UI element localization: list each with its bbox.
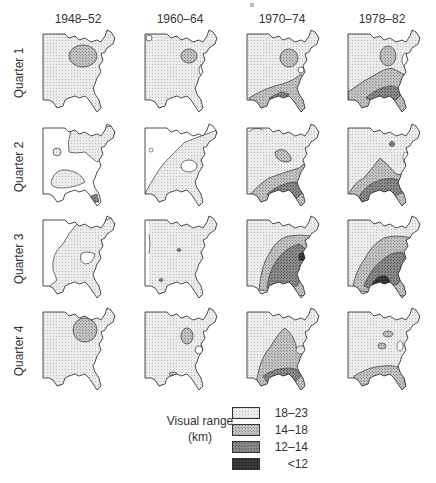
map-q2-1970-74 [239, 122, 329, 212]
map-q3-1978-82 [340, 214, 430, 304]
legend-label: <12 [268, 457, 308, 471]
row-label-text: Quarter 1 [12, 48, 26, 99]
row-label-quarter-2: Quarter 2 [4, 122, 34, 212]
map-q1-1978-82 [340, 28, 430, 118]
map-q4-1960-64 [137, 306, 227, 396]
legend-label: 18–23 [268, 406, 308, 420]
column-title-1960-64: 1960–64 [135, 12, 225, 26]
map-q2-1948-52 [35, 122, 125, 212]
page-mark [250, 3, 254, 7]
row-label-text: Quarter 2 [12, 142, 26, 193]
row-label-quarter-3: Quarter 3 [4, 214, 34, 304]
map-q4-1970-74 [239, 306, 329, 396]
map-q3-1970-74 [239, 214, 329, 304]
legend-label: 14–18 [268, 423, 308, 437]
column-title-1970-74: 1970–74 [237, 12, 327, 26]
row-label-text: Quarter 4 [12, 326, 26, 377]
map-q2-1960-64 [137, 122, 227, 212]
legend-item-12-14: 12–14 [232, 440, 308, 454]
row-label-quarter-4: Quarter 4 [4, 306, 34, 396]
row-label-text: Quarter 3 [12, 234, 26, 285]
map-q1-1970-74 [239, 28, 329, 118]
legend-item-14-18: 14–18 [232, 423, 308, 437]
legend-swatch-12-14 [232, 441, 260, 453]
map-q4-1948-52 [35, 306, 125, 396]
column-title-1948-52: 1948–52 [33, 12, 123, 26]
legend-item-18-23: 18–23 [232, 406, 308, 420]
map-q3-1948-52 [35, 214, 125, 304]
row-label-quarter-1: Quarter 1 [4, 28, 34, 118]
legend-item-lt12: <12 [232, 457, 308, 471]
map-q1-1948-52 [35, 28, 125, 118]
map-q1-1960-64 [137, 28, 227, 118]
map-q2-1978-82 [340, 122, 430, 212]
column-title-1978-82: 1978–82 [337, 12, 427, 26]
map-q4-1978-82 [340, 306, 430, 396]
legend-swatch-18-23 [232, 407, 260, 419]
legend-label: 12–14 [268, 440, 308, 454]
map-q3-1960-64 [137, 214, 227, 304]
legend-swatch-lt12 [232, 458, 260, 470]
legend-swatch-14-18 [232, 424, 260, 436]
